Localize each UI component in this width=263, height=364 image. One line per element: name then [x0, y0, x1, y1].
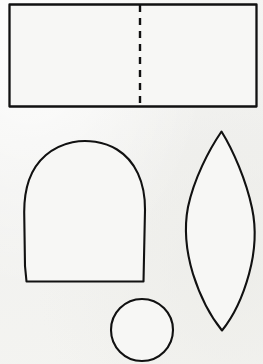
shapes-canvas	[0, 0, 263, 364]
rectangle-with-fold-group	[10, 5, 257, 107]
arch-shape	[24, 141, 145, 282]
leaf-shape	[186, 132, 255, 331]
drawing-sheet	[0, 0, 263, 364]
circle-shape	[111, 299, 173, 361]
rectangle-shape	[10, 5, 257, 107]
